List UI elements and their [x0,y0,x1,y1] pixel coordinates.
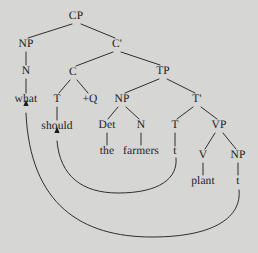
tree-node-v: V [199,150,207,162]
branch-cp-np1 [28,24,72,38]
tree-node-np2: NP [115,94,130,106]
branch-tbar-t2 [177,107,193,119]
tree-node-n1: N [22,66,30,78]
tree-node-np3: NP [231,150,246,162]
branch-c-q [77,80,88,93]
branch-cbar-tp [121,52,160,65]
branch-np2-n2 [126,107,139,119]
tree-node-det: Det [99,120,116,132]
syntax-tree-figure: CPNPC'NCTPwhatT+QNPT'shouldDetNTVPthefar… [0,0,258,253]
branch-vp-v [205,133,215,149]
tree-node-n2: N [137,120,145,132]
branch-c-t1 [59,80,70,93]
tree-node-tbar: T' [192,94,201,106]
tree-node-c: C [69,67,77,79]
branch-tbar-vp [201,107,217,119]
tree-node-should: should [41,121,72,133]
branch-tp-np2 [125,79,159,93]
tree-node-np1: NP [19,39,34,51]
branch-np2-det [108,107,118,119]
branch-cbar-c [76,52,113,66]
tree-node-cp: CP [69,11,83,23]
tree-node-the: the [100,146,114,158]
tree-node-q: +Q [83,94,98,106]
tree-node-plant: plant [191,176,215,188]
tree-node-t1: T [53,94,60,106]
tree-node-cbar: C' [112,39,122,51]
tree-node-vp: VP [212,120,227,132]
branch-cp-cbar [81,24,115,38]
tree-node-farmers: farmers [123,146,159,158]
tree-node-trace_t: t [173,146,176,158]
branch-tp-tbar [167,79,195,93]
tree-node-what: what [15,94,38,106]
tree-node-tp: TP [156,66,170,78]
branch-vp-np3 [223,133,236,149]
tree-node-t2: T [171,120,178,132]
tree-node-trace_np: t [236,176,239,188]
